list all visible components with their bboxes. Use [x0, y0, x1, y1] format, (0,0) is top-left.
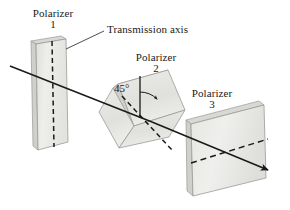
polarizer-2-number: 2 — [125, 63, 187, 74]
polarizer-1-label: Polarizer 1 — [22, 8, 84, 30]
polarizer-figure: Polarizer 1 Transmission axis Polarizer … — [0, 0, 290, 210]
polarizer-1-slab — [31, 36, 68, 150]
transmission-axis-leader-line — [66, 31, 104, 49]
polarizer-1-face — [36, 39, 68, 150]
transmission-axis-label: Transmission axis — [107, 24, 188, 35]
angle-45-label: 45° — [114, 82, 129, 94]
polarizer-1-number: 1 — [22, 19, 84, 30]
polarizer-3-label: Polarizer 3 — [181, 88, 243, 110]
polarizer-3-slab — [186, 101, 268, 196]
polarizer-2-slab — [99, 70, 185, 150]
polarizer-3-number: 3 — [181, 99, 243, 110]
polarizer-2-label: Polarizer 2 — [125, 52, 187, 74]
